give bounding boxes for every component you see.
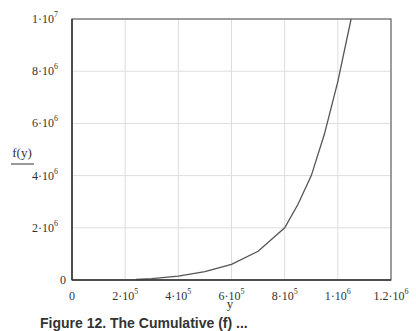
y-tick-label: 2·106 <box>32 219 58 235</box>
x-tick-label: 4·105 <box>165 287 191 303</box>
x-axis-ticks: 02·1054·1056·1058·1051·1061.2·106 <box>69 287 409 303</box>
data-series-f-y <box>136 19 351 280</box>
y-axis-label: f(y) <box>12 145 32 160</box>
series-line <box>136 19 351 280</box>
x-tick-label: 1.2·106 <box>374 287 409 303</box>
y-tick-label: 8·106 <box>32 62 58 78</box>
y-tick-label: 4·106 <box>32 167 58 183</box>
x-tick-label: 1·106 <box>325 287 351 303</box>
figure-caption: Figure 12. The Cumulative (f) ... <box>40 315 248 331</box>
y-tick-label: 1·107 <box>32 10 58 26</box>
x-tick-label: 0 <box>69 289 75 303</box>
x-tick-label: 2·105 <box>112 287 138 303</box>
x-axis-label: y <box>227 296 234 311</box>
y-tick-label: 6·106 <box>32 114 58 130</box>
x-tick-label: 8·105 <box>272 287 298 303</box>
y-axis-ticks: 02·1064·1066·1068·1061·107 <box>32 10 66 287</box>
y-tick-label: 0 <box>60 273 66 287</box>
